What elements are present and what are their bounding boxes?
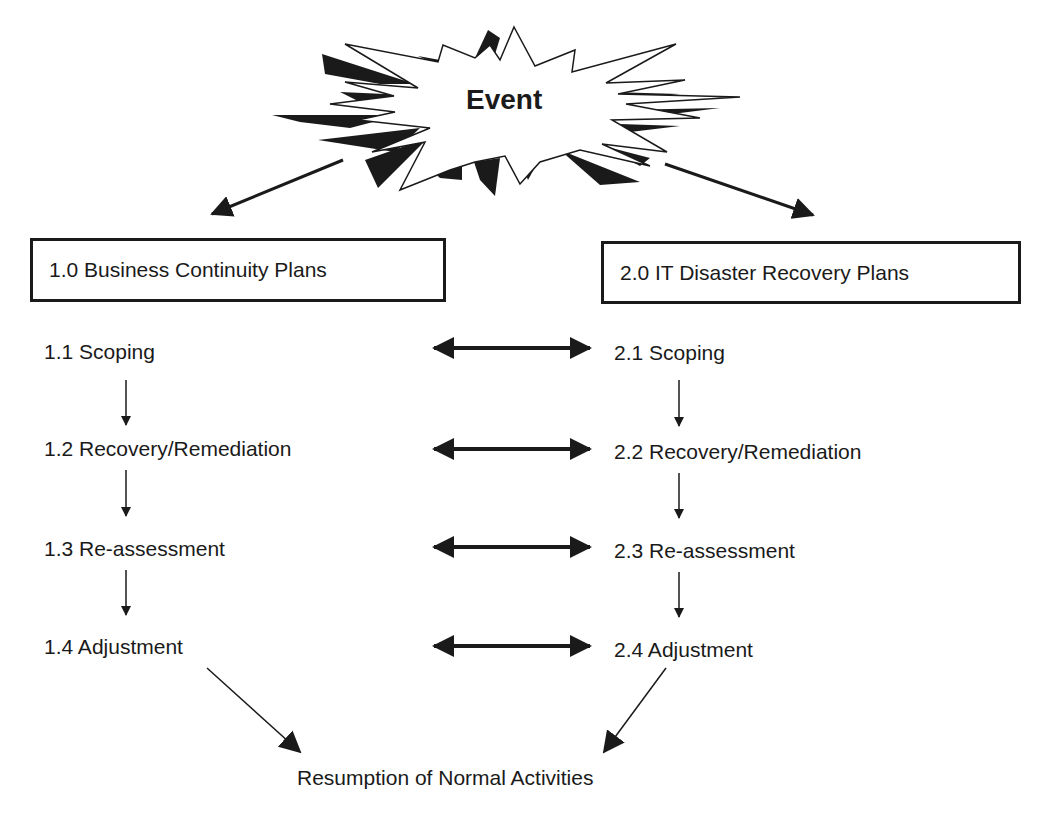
itdr-step-1: 2.1 Scoping	[614, 341, 725, 365]
event-to-itdr-arrow	[665, 164, 813, 215]
diagram-canvas	[0, 0, 1046, 820]
event-label: Event	[466, 84, 542, 116]
bcp-step-2: 1.2 Recovery/Remediation	[44, 437, 291, 461]
itdr-step-4: 2.4 Adjustment	[614, 638, 753, 662]
itdr-header-box: 2.0 IT Disaster Recovery Plans	[601, 241, 1021, 304]
event-to-bcp-arrow	[212, 160, 343, 214]
itdr-step-3: 2.3 Re-assessment	[614, 539, 795, 563]
bcp-step-1: 1.1 Scoping	[44, 340, 155, 364]
bcp-step-4: 1.4 Adjustment	[44, 635, 183, 659]
bcp-header-label: 1.0 Business Continuity Plans	[49, 258, 327, 282]
itdr-to-resumption-arrow	[604, 668, 666, 752]
itdr-step-2: 2.2 Recovery/Remediation	[614, 440, 861, 464]
itdr-header-label: 2.0 IT Disaster Recovery Plans	[620, 261, 909, 285]
bcp-step-3: 1.3 Re-assessment	[44, 537, 225, 561]
bcp-header-box: 1.0 Business Continuity Plans	[30, 238, 446, 302]
bcp-to-resumption-arrow	[207, 668, 300, 752]
outcome-label: Resumption of Normal Activities	[297, 766, 593, 790]
